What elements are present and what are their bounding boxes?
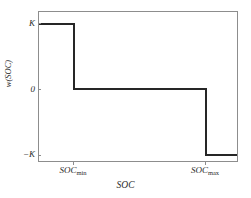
x-tick-label-soc-max: SOCmax (191, 165, 219, 176)
data-segment-drop-at-soc-max (205, 88, 207, 156)
data-segment-low-plateau (205, 154, 237, 156)
x-axis-title: SOC (0, 180, 251, 190)
x-axis-title-text: SOC (117, 180, 135, 190)
data-segment-drop-at-soc-min (73, 23, 75, 90)
x-tick-label-soc-min: SOCmin (59, 165, 86, 176)
y-axis-title-text: w(SOC) (3, 60, 13, 87)
y-tickmark-zero (38, 89, 41, 90)
data-segment-zero-plateau (73, 88, 207, 90)
x-tick-label-soc-min-base: SOC (59, 165, 76, 175)
y-tickmark-K (38, 23, 41, 24)
x-tick-label-soc-max-base: SOC (191, 165, 208, 175)
data-segment-high-plateau (39, 23, 75, 25)
x-tick-label-soc-max-sub: max (208, 169, 219, 176)
y-tickmark-negK (38, 155, 41, 156)
figure-canvas: K 0 −K w(SOC) SOCmin SOCmax SOC (0, 0, 251, 198)
y-tick-label-negative-K: −K (0, 150, 35, 159)
y-tick-label-K: K (0, 19, 35, 28)
y-axis-title: w(SOC) (4, 44, 13, 104)
x-tick-label-soc-min-sub: min (76, 169, 86, 176)
plot-frame (38, 11, 238, 162)
